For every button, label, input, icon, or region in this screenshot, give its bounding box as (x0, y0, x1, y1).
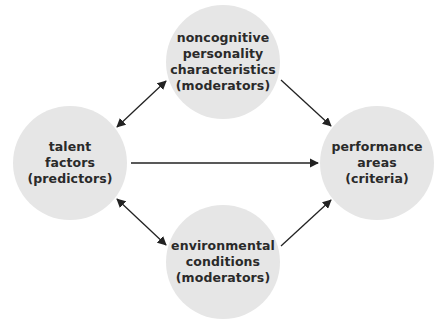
arrow-top-to-right-icon (281, 80, 331, 126)
arrow-left-top-bidirectional-icon (117, 81, 166, 127)
arrow-left-bottom-bidirectional-icon (117, 199, 166, 245)
arrow-bottom-to-right-icon (281, 200, 331, 246)
